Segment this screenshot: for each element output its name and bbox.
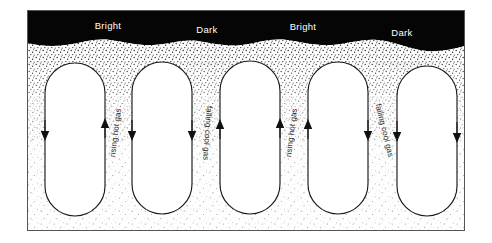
diagram-body: rising hot gas falling cool gas rising h… (0, 2, 465, 231)
surface-label-bright: Bright (290, 21, 317, 32)
surface-label-dark: Dark (196, 24, 217, 35)
surface-label-dark: Dark (391, 27, 412, 38)
convection-diagram-figure: rising hot gas falling cool gas rising h… (0, 0, 492, 243)
convection-cell (45, 63, 105, 216)
diagram-canvas: rising hot gas falling cool gas rising h… (0, 0, 492, 243)
convection-cell (308, 62, 368, 214)
convection-cell (132, 62, 192, 214)
surface-label-bright: Bright (95, 20, 122, 31)
convection-cell (220, 61, 280, 214)
convection-cell (397, 66, 457, 216)
